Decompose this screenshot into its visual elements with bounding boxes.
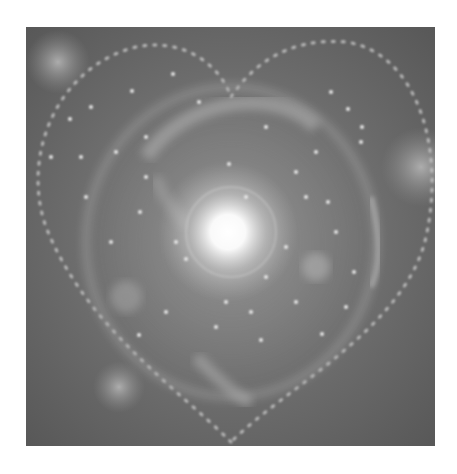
galaxy-core	[158, 162, 298, 302]
glow-blob-bottom-left	[93, 361, 145, 413]
galaxy-heart-image	[26, 27, 435, 446]
galaxy-artwork	[26, 27, 435, 446]
glow-blob-top-left	[26, 30, 90, 94]
